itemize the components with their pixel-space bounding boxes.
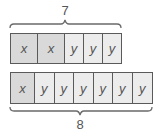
- top-total-label: 7: [61, 4, 68, 17]
- bottom-tape: x y y y y y y: [10, 72, 153, 104]
- top-tape: x x y y y: [10, 33, 122, 64]
- bottom-cell-y: y: [74, 73, 94, 103]
- bottom-cell-y: y: [35, 73, 55, 103]
- bottom-total-label: 8: [76, 118, 83, 131]
- bottom-brace: [10, 107, 152, 115]
- top-cell-y: y: [103, 34, 121, 63]
- bottom-cell-y: y: [55, 73, 75, 103]
- top-cell-x: x: [38, 34, 65, 63]
- bottom-cell-x: x: [11, 73, 35, 103]
- braces: [0, 0, 161, 136]
- bottom-cell-y: y: [133, 73, 153, 103]
- bottom-cell-y: y: [94, 73, 114, 103]
- bottom-cell-y: y: [113, 73, 133, 103]
- top-cell-y: y: [84, 34, 103, 63]
- top-brace: [10, 20, 121, 28]
- top-cell-y: y: [65, 34, 84, 63]
- top-cell-x: x: [11, 34, 38, 63]
